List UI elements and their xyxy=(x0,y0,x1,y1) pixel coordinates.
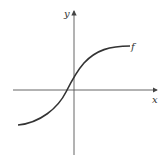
function-graph: f x y xyxy=(0,0,167,159)
function-label: f xyxy=(130,41,137,52)
y-axis-label: y xyxy=(63,8,70,19)
x-axis-label: x xyxy=(152,94,158,105)
